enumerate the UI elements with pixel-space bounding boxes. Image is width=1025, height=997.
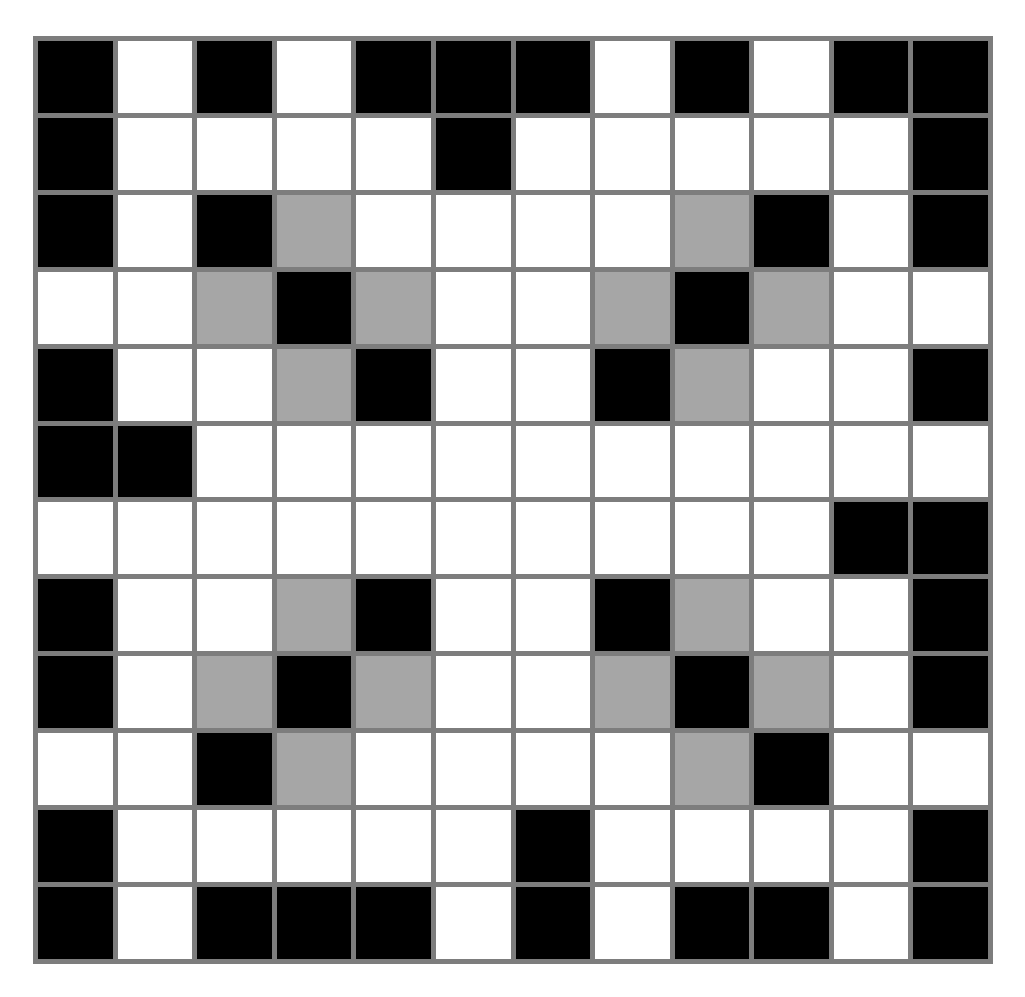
grid-cell-white-r5c9[interactable] (754, 426, 829, 498)
grid-cell-white-r1c6[interactable] (516, 118, 591, 190)
grid-cell-white-r2c10[interactable] (834, 195, 909, 267)
grid-cell-black-r2c2[interactable] (197, 195, 272, 267)
grid-cell-white-r11c5[interactable] (436, 887, 511, 959)
grid-cell-white-r4c1[interactable] (118, 349, 193, 421)
grid-cell-black-r7c4[interactable] (356, 579, 431, 651)
grid-cell-black-r6c10[interactable] (834, 502, 909, 574)
grid-cell-black-r11c8[interactable] (675, 887, 750, 959)
grid-cell-black-r4c4[interactable] (356, 349, 431, 421)
grid-cell-white-r1c1[interactable] (118, 118, 193, 190)
grid-cell-gray-r3c7[interactable] (595, 272, 670, 344)
grid-cell-black-r1c0[interactable] (38, 118, 113, 190)
grid-cell-black-r11c0[interactable] (38, 887, 113, 959)
grid-cell-white-r3c1[interactable] (118, 272, 193, 344)
grid-cell-white-r2c1[interactable] (118, 195, 193, 267)
grid-cell-white-r5c8[interactable] (675, 426, 750, 498)
grid-cell-black-r0c8[interactable] (675, 41, 750, 113)
grid-cell-black-r0c4[interactable] (356, 41, 431, 113)
grid-cell-black-r5c0[interactable] (38, 426, 113, 498)
grid-cell-white-r9c11[interactable] (913, 733, 988, 805)
grid-cell-black-r0c10[interactable] (834, 41, 909, 113)
grid-cell-black-r5c1[interactable] (118, 426, 193, 498)
grid-cell-gray-r2c8[interactable] (675, 195, 750, 267)
grid-cell-white-r1c10[interactable] (834, 118, 909, 190)
grid-cell-white-r0c7[interactable] (595, 41, 670, 113)
grid-cell-white-r7c10[interactable] (834, 579, 909, 651)
grid-cell-black-r4c7[interactable] (595, 349, 670, 421)
grid-cell-white-r1c4[interactable] (356, 118, 431, 190)
grid-cell-white-r11c1[interactable] (118, 887, 193, 959)
grid-cell-white-r6c1[interactable] (118, 502, 193, 574)
grid-cell-white-r4c5[interactable] (436, 349, 511, 421)
grid-cell-black-r11c4[interactable] (356, 887, 431, 959)
grid-cell-white-r2c6[interactable] (516, 195, 591, 267)
grid-cell-gray-r7c3[interactable] (277, 579, 352, 651)
grid-cell-white-r4c10[interactable] (834, 349, 909, 421)
grid-cell-white-r10c8[interactable] (675, 810, 750, 882)
grid-cell-gray-r8c4[interactable] (356, 656, 431, 728)
grid-cell-white-r5c4[interactable] (356, 426, 431, 498)
grid-cell-white-r7c5[interactable] (436, 579, 511, 651)
grid-cell-black-r10c0[interactable] (38, 810, 113, 882)
grid-cell-white-r6c8[interactable] (675, 502, 750, 574)
grid-cell-white-r5c3[interactable] (277, 426, 352, 498)
grid-cell-white-r8c6[interactable] (516, 656, 591, 728)
grid-cell-white-r11c10[interactable] (834, 887, 909, 959)
grid-cell-white-r3c6[interactable] (516, 272, 591, 344)
grid-cell-black-r8c3[interactable] (277, 656, 352, 728)
grid-cell-black-r0c11[interactable] (913, 41, 988, 113)
grid-cell-black-r8c11[interactable] (913, 656, 988, 728)
grid-cell-black-r7c11[interactable] (913, 579, 988, 651)
grid-cell-white-r10c10[interactable] (834, 810, 909, 882)
grid-cell-white-r9c10[interactable] (834, 733, 909, 805)
grid-cell-black-r0c0[interactable] (38, 41, 113, 113)
grid-cell-gray-r4c8[interactable] (675, 349, 750, 421)
grid-cell-gray-r3c9[interactable] (754, 272, 829, 344)
grid-cell-white-r8c10[interactable] (834, 656, 909, 728)
grid-cell-white-r2c4[interactable] (356, 195, 431, 267)
grid-cell-white-r8c1[interactable] (118, 656, 193, 728)
grid-cell-black-r11c2[interactable] (197, 887, 272, 959)
grid-cell-gray-r8c2[interactable] (197, 656, 272, 728)
grid-cell-white-r5c6[interactable] (516, 426, 591, 498)
grid-cell-white-r3c5[interactable] (436, 272, 511, 344)
grid-cell-black-r6c11[interactable] (913, 502, 988, 574)
grid-cell-white-r5c7[interactable] (595, 426, 670, 498)
grid-cell-black-r3c3[interactable] (277, 272, 352, 344)
grid-cell-white-r9c0[interactable] (38, 733, 113, 805)
grid-cell-white-r10c9[interactable] (754, 810, 829, 882)
grid-cell-white-r6c7[interactable] (595, 502, 670, 574)
grid-cell-white-r9c7[interactable] (595, 733, 670, 805)
grid-cell-gray-r3c2[interactable] (197, 272, 272, 344)
grid-cell-white-r6c6[interactable] (516, 502, 591, 574)
grid-cell-white-r11c7[interactable] (595, 887, 670, 959)
grid-cell-white-r1c7[interactable] (595, 118, 670, 190)
grid-cell-white-r10c7[interactable] (595, 810, 670, 882)
grid-cell-black-r2c9[interactable] (754, 195, 829, 267)
grid-cell-black-r9c9[interactable] (754, 733, 829, 805)
grid-cell-black-r0c5[interactable] (436, 41, 511, 113)
grid-cell-white-r7c9[interactable] (754, 579, 829, 651)
grid-cell-white-r9c6[interactable] (516, 733, 591, 805)
grid-cell-white-r9c5[interactable] (436, 733, 511, 805)
grid-cell-white-r1c3[interactable] (277, 118, 352, 190)
grid-cell-black-r11c9[interactable] (754, 887, 829, 959)
grid-cell-black-r0c2[interactable] (197, 41, 272, 113)
grid-cell-white-r5c2[interactable] (197, 426, 272, 498)
grid-cell-white-r0c9[interactable] (754, 41, 829, 113)
grid-cell-black-r2c0[interactable] (38, 195, 113, 267)
grid-cell-gray-r4c3[interactable] (277, 349, 352, 421)
grid-cell-white-r10c2[interactable] (197, 810, 272, 882)
grid-cell-white-r9c1[interactable] (118, 733, 193, 805)
grid-cell-white-r7c2[interactable] (197, 579, 272, 651)
grid-cell-white-r6c2[interactable] (197, 502, 272, 574)
grid-cell-white-r4c6[interactable] (516, 349, 591, 421)
grid-cell-white-r0c1[interactable] (118, 41, 193, 113)
grid-cell-white-r4c2[interactable] (197, 349, 272, 421)
grid-cell-gray-r9c3[interactable] (277, 733, 352, 805)
grid-cell-white-r3c11[interactable] (913, 272, 988, 344)
grid-cell-white-r1c8[interactable] (675, 118, 750, 190)
grid-cell-black-r1c11[interactable] (913, 118, 988, 190)
grid-cell-black-r10c6[interactable] (516, 810, 591, 882)
grid-cell-white-r5c5[interactable] (436, 426, 511, 498)
